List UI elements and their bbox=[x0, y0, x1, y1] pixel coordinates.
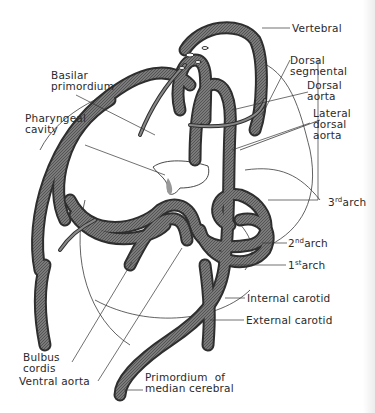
label-dorsal-aorta: Dorsal aorta bbox=[307, 80, 342, 102]
pharyngeal-cavity-shape bbox=[153, 161, 209, 194]
label-bulbus-cordis: Bulbus cordis bbox=[23, 352, 60, 374]
label-primordium-median-cerebral: Primordium of median cerebral bbox=[145, 372, 234, 394]
label-dorsal-segmental: Dorsal segmental bbox=[290, 55, 347, 77]
label-lateral-dorsal-aorta: Lateral dorsal aorta bbox=[313, 108, 351, 141]
label-first-arch: 1starch bbox=[288, 260, 325, 271]
label-ventral-aorta: Ventral aorta bbox=[19, 376, 90, 387]
label-third-arch: 3rdarch bbox=[328, 197, 366, 208]
anatomy-diagram: Vertebral Dorsal segmental Dorsal aorta … bbox=[0, 0, 375, 413]
label-second-arch: 2ndarch bbox=[288, 238, 328, 249]
label-internal-carotid: Internal carotid bbox=[247, 293, 330, 304]
label-external-carotid: External carotid bbox=[246, 315, 333, 326]
label-vertebral: Vertebral bbox=[292, 23, 342, 34]
label-basilar-primordium: Basilar primordium bbox=[51, 70, 114, 92]
label-pharyngeal-cavity: Pharyngeal cavity bbox=[25, 113, 86, 135]
